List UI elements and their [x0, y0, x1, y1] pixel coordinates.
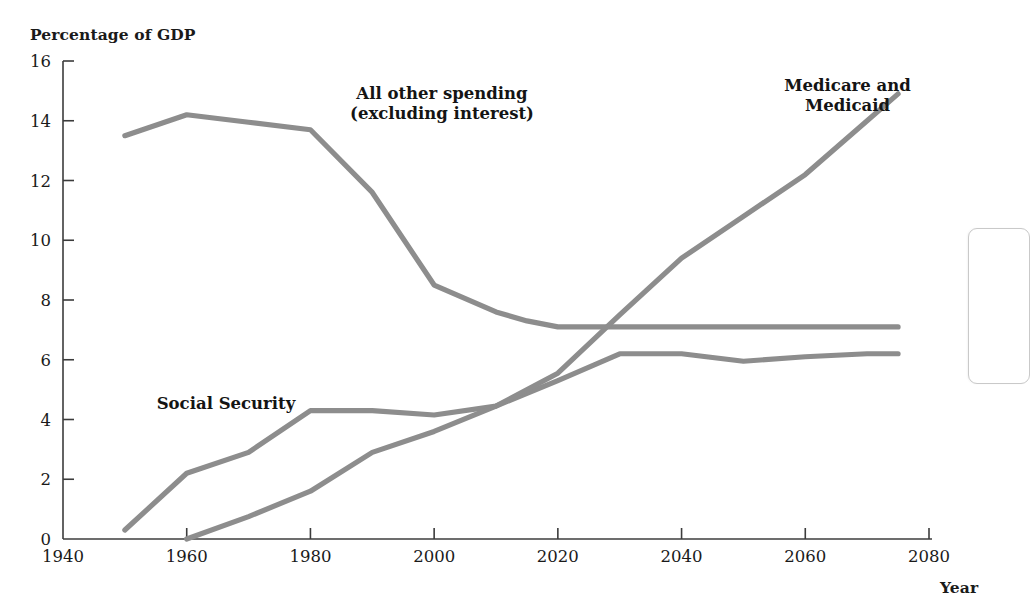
y-tick-label: 2 [11, 470, 51, 489]
y-axis-title: Percentage of GDP [30, 25, 196, 44]
series-line [125, 115, 898, 327]
page-edge-artifact [968, 228, 1030, 384]
series-line [187, 94, 898, 539]
x-tick-label: 2020 [518, 547, 598, 566]
x-tick-label: 1980 [270, 547, 350, 566]
y-tick-label: 12 [11, 171, 51, 190]
y-tick-label: 4 [11, 410, 51, 429]
x-axis-title: Year [940, 578, 978, 597]
series-label-all-other-spending: All other spending (excluding interest) [322, 84, 562, 124]
series-line [125, 354, 898, 530]
y-tick-label: 0 [11, 530, 51, 549]
axis-lines [63, 61, 932, 539]
x-tick-label: 2080 [889, 547, 969, 566]
tick-marks [63, 61, 929, 539]
x-tick-label: 2040 [642, 547, 722, 566]
y-tick-label: 16 [11, 52, 51, 71]
y-tick-label: 14 [11, 111, 51, 130]
data-series-group [125, 94, 898, 539]
x-tick-label: 1960 [147, 547, 227, 566]
x-tick-label: 1940 [23, 547, 103, 566]
y-tick-label: 8 [11, 291, 51, 310]
series-label-medicare-medicaid: Medicare and Medicaid [740, 76, 955, 116]
y-tick-label: 6 [11, 350, 51, 369]
y-tick-label: 10 [11, 231, 51, 250]
x-tick-label: 2060 [765, 547, 845, 566]
x-tick-label: 2000 [394, 547, 474, 566]
series-label-social-security: Social Security [136, 394, 316, 414]
